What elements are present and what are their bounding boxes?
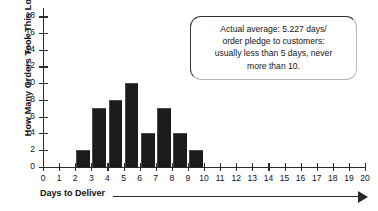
- callout-line: order pledge to customers:: [197, 35, 350, 47]
- x-tick: [365, 163, 366, 171]
- x-tick-label: 20: [355, 173, 375, 183]
- y-tick: 4: [39, 133, 48, 134]
- x-tick: [301, 163, 302, 171]
- delivery-days-histogram: How Many Orders Took This Long 024681012…: [0, 0, 378, 211]
- bar: [76, 150, 90, 167]
- x-tick: [252, 163, 253, 171]
- y-tick-label: 12: [26, 60, 35, 70]
- y-tick-label: 2: [30, 144, 35, 154]
- y-tick: 10: [39, 83, 48, 84]
- y-tick: 2: [39, 150, 48, 151]
- x-axis-arrow-line: [113, 196, 361, 197]
- y-tick: 12: [39, 66, 48, 67]
- y-tick-label: 8: [30, 94, 35, 104]
- bar: [109, 100, 123, 167]
- bar: [189, 150, 203, 167]
- x-tick: [204, 163, 205, 171]
- callout-line: usually less than 5 days, never: [197, 47, 350, 59]
- bar: [125, 83, 139, 166]
- x-tick: [236, 163, 237, 171]
- x-tick: [285, 163, 286, 171]
- average-callout: Actual average: 5.227 days/ order pledge…: [190, 16, 357, 80]
- x-tick: [220, 163, 221, 171]
- x-tick: [317, 163, 318, 171]
- y-axis-line: [43, 8, 44, 168]
- x-tick: [268, 163, 269, 171]
- x-tick: [59, 163, 60, 171]
- bar: [157, 108, 171, 166]
- y-tick: 14: [39, 50, 48, 51]
- bar: [173, 133, 187, 166]
- y-tick-label: 14: [26, 44, 35, 54]
- callout-line: more than 10.: [197, 60, 350, 72]
- y-tick-label: 16: [26, 27, 35, 37]
- callout-line: Actual average: 5.227 days/: [197, 23, 350, 35]
- x-tick: [43, 163, 44, 171]
- x-axis-arrow-icon: [358, 191, 368, 203]
- y-tick-label: 18: [26, 10, 35, 20]
- y-axis-title: How Many Orders Took This Long: [23, 0, 33, 145]
- x-tick: [349, 163, 350, 171]
- y-tick-label: 10: [26, 77, 35, 87]
- x-axis-title: Days to Deliver: [40, 188, 105, 198]
- y-tick: 18: [39, 16, 48, 17]
- bar: [141, 133, 155, 166]
- y-tick-label: 6: [30, 111, 35, 121]
- y-tick-label: 0: [30, 161, 35, 171]
- y-tick: 6: [39, 117, 48, 118]
- y-tick-label: 4: [30, 127, 35, 137]
- y-tick: 8: [39, 100, 48, 101]
- bar: [92, 108, 106, 166]
- x-tick: [333, 163, 334, 171]
- y-tick: 16: [39, 33, 48, 34]
